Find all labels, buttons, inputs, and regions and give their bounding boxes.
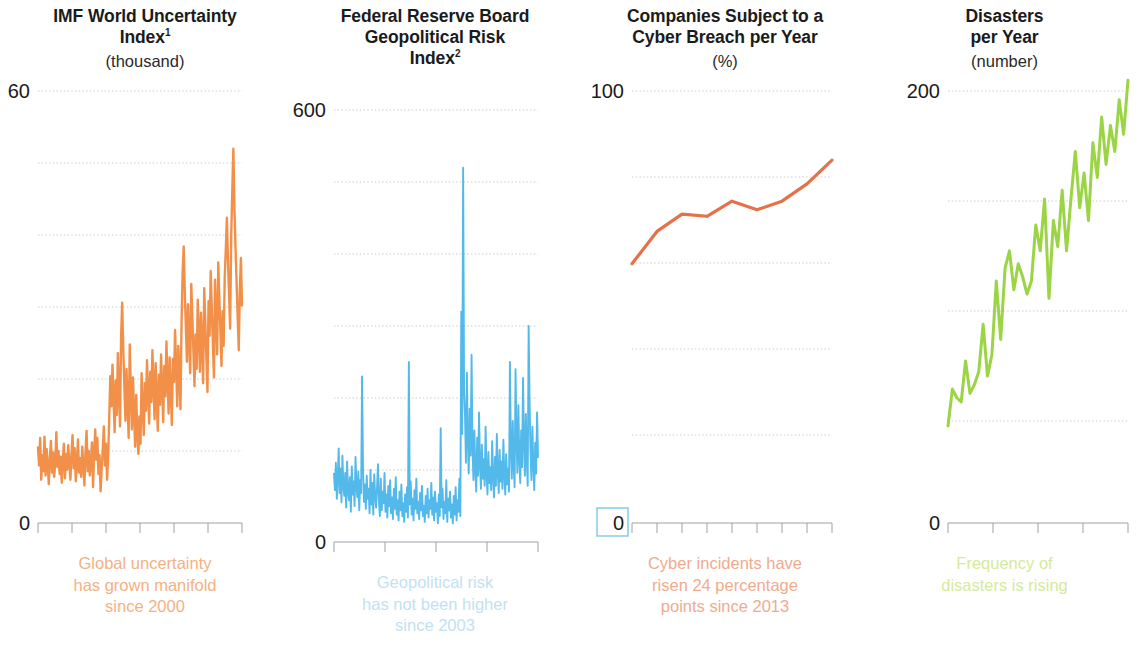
panel-3-series-line: [632, 160, 832, 264]
panel-2-xaxis: [334, 542, 538, 552]
panel-4-y-bottom-label: 0: [929, 512, 940, 534]
panel-1-title-superscript: 1: [165, 27, 170, 38]
panel-1-y-bottom-label: 0: [19, 512, 30, 534]
panel-1-title-line2: Index: [120, 27, 165, 47]
panel-4-caption-line1: Frequency of: [956, 554, 1052, 572]
panel-4-xaxis: [948, 523, 1128, 533]
panel-2-title-superscript: 2: [455, 48, 460, 59]
panel-1-svg: 60 0: [0, 71, 290, 541]
panel-companies-cyber-breach: Companies Subject to a Cyber Breach per …: [580, 0, 870, 659]
panel-2-title-line2: Geopolitical Risk: [365, 27, 505, 47]
panel-1-units: (thousand): [0, 50, 290, 71]
panel-4-svg: 200 0: [870, 71, 1139, 541]
panel-2-units: [290, 69, 580, 90]
panel-3-svg: 100 0: [580, 71, 870, 541]
panel-1-xaxis: [38, 523, 242, 533]
panel-4-title-line1: Disasters: [966, 6, 1044, 26]
panel-2-svg: 600 0: [290, 90, 580, 560]
panel-3-plot: 100 0: [580, 71, 870, 541]
panel-4-plot: 200 0: [870, 71, 1139, 541]
panel-1-caption-line2: has grown manifold: [73, 576, 216, 594]
panel-2-caption: Geopolitical risk has not been higher si…: [290, 560, 580, 637]
panel-3-xaxis: [632, 523, 832, 533]
panel-3-title-line1: Companies Subject to a: [627, 6, 823, 26]
panel-2-title-line1: Federal Reserve Board: [341, 6, 530, 26]
panel-2-caption-line1: Geopolitical risk: [377, 573, 493, 591]
panel-2-caption-line2: has not been higher: [362, 595, 508, 613]
panel-1-title-line1: IMF World Uncertainty: [53, 6, 236, 26]
panel-2-caption-line3: since 2003: [395, 616, 475, 634]
panel-2-title-line3: Index: [410, 48, 455, 68]
panel-3-units: (%): [580, 50, 870, 71]
panel-2-gridlines: [334, 110, 538, 470]
panel-3-caption-line1: Cyber incidents have: [648, 554, 802, 572]
panel-3-caption-line2: risen 24 percentage: [652, 576, 798, 594]
panel-4-y-top-label: 200: [907, 80, 940, 102]
panel-3-y-top-label: 100: [591, 80, 624, 102]
panel-4-title-line2: per Year: [971, 27, 1039, 47]
panel-4-title: Disasters per Year: [870, 0, 1139, 50]
panel-3-caption-line3: points since 2013: [661, 597, 789, 615]
panel-1-title: IMF World Uncertainty Index1: [0, 0, 290, 50]
panel-fed-geopolitical-risk-index: Federal Reserve Board Geopolitical Risk …: [290, 0, 580, 659]
panel-2-y-top-label: 600: [293, 99, 326, 121]
panel-1-caption-line3: since 2000: [105, 597, 185, 615]
panel-4-caption-line2: disasters is rising: [941, 576, 1068, 594]
panel-3-gridlines: [632, 91, 832, 435]
panel-1-caption: Global uncertainty has grown manifold si…: [0, 541, 290, 618]
panel-3-title: Companies Subject to a Cyber Breach per …: [580, 0, 870, 50]
panel-3-caption: Cyber incidents have risen 24 percentage…: [580, 541, 870, 618]
panel-1-series-line: [38, 149, 242, 492]
panel-1-y-top-label: 60: [8, 80, 30, 102]
panel-1-plot: 60 0: [0, 71, 290, 541]
panel-1-caption-line1: Global uncertainty: [79, 554, 212, 572]
panel-disasters-per-year: Disasters per Year (number) 200: [870, 0, 1139, 659]
panel-3-title-line2: Cyber Breach per Year: [632, 27, 817, 47]
panel-2-title: Federal Reserve Board Geopolitical Risk …: [290, 0, 580, 69]
panel-2-y-bottom-label: 0: [315, 531, 326, 553]
panel-imf-world-uncertainty-index: IMF World Uncertainty Index1 (thousand) …: [0, 0, 290, 659]
uncertainty-figure: IMF World Uncertainty Index1 (thousand) …: [0, 0, 1139, 659]
panel-4-units: (number): [870, 50, 1139, 71]
panel-2-plot: 600 0: [290, 90, 580, 560]
panel-4-series-line: [948, 80, 1128, 426]
panel-4-caption: Frequency of disasters is rising: [870, 541, 1139, 596]
panel-3-y-bottom-label: 0: [613, 512, 624, 534]
